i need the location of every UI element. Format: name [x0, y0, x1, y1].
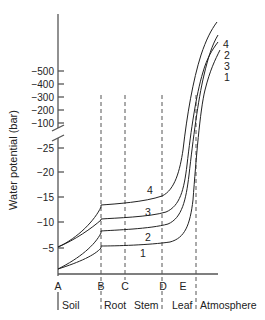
point-label-a: A	[54, 280, 61, 292]
curve-label-4: 4	[147, 184, 153, 196]
curve-4	[58, 22, 217, 247]
curve-label-1: 1	[140, 247, 146, 259]
point-label-b: B	[97, 280, 104, 292]
region-label-soil: Soil	[62, 299, 80, 311]
curve-end-label-1: 1	[224, 71, 230, 83]
y-tick-label: −100	[31, 118, 54, 129]
region-label-atmosphere: Atmosphere	[200, 299, 257, 311]
water-potential-chart: −500 −400 −300 −200 −100 −25 −20 −15 −10…	[0, 0, 265, 320]
curve-3	[58, 42, 218, 247]
point-label-d: D	[159, 280, 167, 292]
y-axis-label: Water potential (bar)	[7, 110, 19, 210]
y-tick-label: −10	[37, 217, 54, 228]
curve-label-2: 2	[145, 231, 151, 243]
y-tick-label: −400	[31, 79, 54, 90]
region-label-leaf: Leaf	[172, 299, 193, 311]
y-tick-label: −200	[31, 105, 54, 116]
y-tick-label: −500	[31, 66, 54, 77]
y-tick-label: −15	[37, 192, 54, 203]
y-tick-label: −5	[43, 243, 55, 254]
y-tick-label: −300	[31, 92, 54, 103]
point-label-e: E	[179, 280, 186, 292]
region-label-stem: Stem	[134, 299, 159, 311]
region-label-root: Root	[104, 299, 126, 311]
point-label-c: C	[121, 280, 129, 292]
curve-label-3: 3	[145, 206, 151, 218]
y-tick-label: −25	[37, 143, 54, 154]
y-ticks	[58, 71, 64, 248]
y-tick-label: −20	[37, 167, 54, 178]
